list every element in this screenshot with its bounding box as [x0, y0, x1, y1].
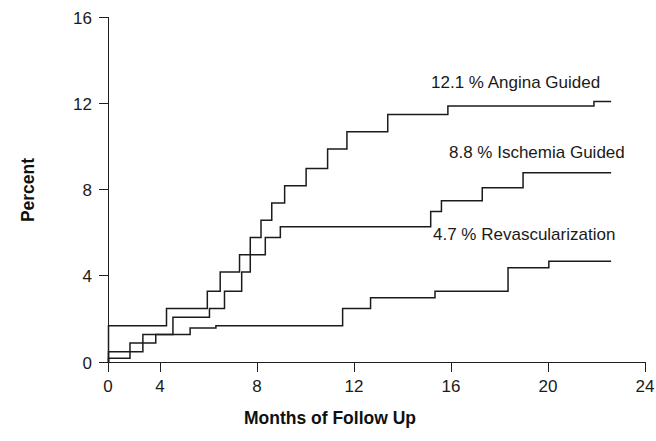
y-tick-label-12: 12 [73, 95, 92, 114]
x-tick-label-24: 24 [636, 377, 655, 396]
x-tick-label-0: 0 [103, 377, 112, 396]
chart-container: 16 12 8 4 0 0 4 8 12 16 20 24 Percent Mo… [0, 0, 656, 441]
series-path-revascularization [109, 261, 612, 362]
x-tick-label-16: 16 [442, 377, 461, 396]
y-tick-label-16: 16 [73, 9, 92, 28]
series-label-ischemia-guided: 8.8 % Ischemia Guided [449, 143, 625, 162]
y-tick-label-4: 4 [83, 267, 92, 286]
y-tick-label-0: 0 [83, 354, 92, 373]
series-label-revascularization: 4.7 % Revascularization [433, 225, 615, 244]
x-axis-ticks [109, 363, 646, 373]
step-chart: 16 12 8 4 0 0 4 8 12 16 20 24 Percent Mo… [0, 0, 656, 441]
x-tick-label-20: 20 [539, 377, 558, 396]
x-tick-label-4: 4 [155, 377, 164, 396]
y-axis-ticks [99, 18, 109, 363]
x-tick-label-8: 8 [252, 377, 261, 396]
y-axis-title: Percent [18, 158, 38, 222]
x-tick-label-12: 12 [345, 377, 364, 396]
series-label-angina-guided: 12.1 % Angina Guided [431, 73, 600, 92]
y-tick-label-8: 8 [83, 181, 92, 200]
x-axis-title: Months of Follow Up [244, 408, 416, 428]
